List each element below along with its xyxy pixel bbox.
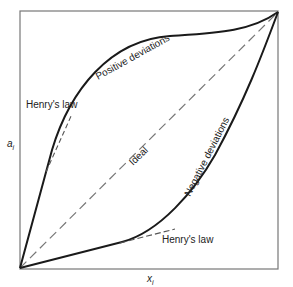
henry-law-tangent-upper (46, 114, 72, 172)
ideal-label: Ideal (127, 144, 150, 167)
henry-law-label-upper: Henry's law (26, 99, 78, 110)
positive-deviations-label: Positive deviations (94, 32, 172, 82)
y-axis-label: ai (7, 138, 15, 151)
x-axis-label: xi (146, 273, 154, 286)
henry-law-label-lower: Henry's law (162, 234, 214, 245)
negative-deviations-label: Negative deviations (182, 115, 231, 198)
activity-diagram: Positive deviations Ideal Negative devia… (0, 0, 293, 287)
